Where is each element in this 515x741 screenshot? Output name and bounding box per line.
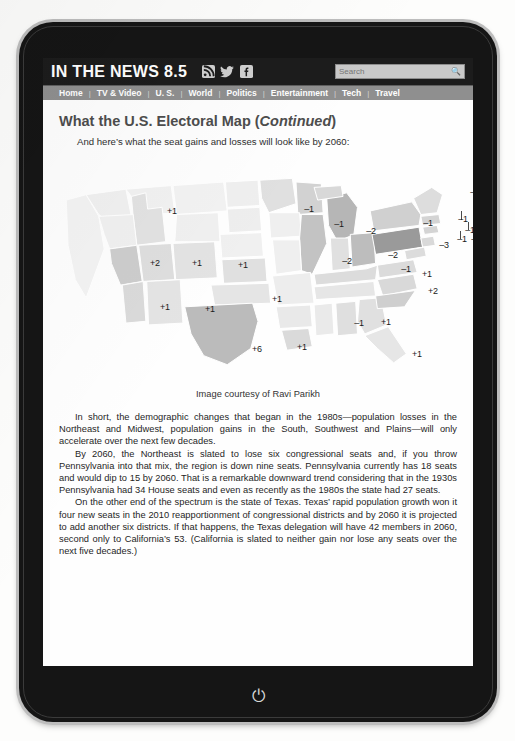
map-label-kansas: +1: [272, 294, 282, 304]
map-label-minnesota: –1: [304, 204, 314, 214]
scanned-page: IN THE NEWS 8.5: [0, 0, 515, 741]
map-label-new-jersey: –1: [471, 234, 473, 244]
map-label-connecticut: –1: [457, 234, 467, 244]
map-label-florida: +1: [412, 349, 422, 359]
map-label-maine: –1: [470, 187, 473, 197]
map-label-colorado: +1: [238, 260, 248, 270]
site-header: IN THE NEWS 8.5: [43, 58, 473, 85]
body-copy: In short, the demographic changes that b…: [59, 411, 457, 557]
map-label-utah: +1: [192, 258, 202, 268]
map-label-ohio: –2: [388, 250, 398, 260]
map-label-illinois: –2: [342, 256, 352, 266]
home-button[interactable]: ⏻: [247, 686, 269, 708]
nav-item-travel[interactable]: Travel: [369, 88, 406, 98]
map-label-vermont: –1: [458, 214, 468, 224]
map-label-kentucky: –1: [401, 264, 411, 274]
nav-item-world[interactable]: World: [182, 88, 218, 98]
paragraph-3: On the other end of the spectrum is the …: [59, 496, 457, 557]
search-box[interactable]: 🔍: [335, 64, 465, 79]
social-links: [201, 65, 253, 79]
site-logo: IN THE NEWS 8.5: [51, 63, 187, 81]
map-label-new-york: –1: [423, 218, 433, 228]
page-title-continued: Continued: [260, 113, 332, 129]
tablet-device: IN THE NEWS 8.5: [19, 22, 497, 722]
figure-caption: Image courtesy of Ravi Parikh: [59, 389, 457, 399]
map-label-idaho: +1: [167, 206, 177, 216]
rss-icon[interactable]: [201, 65, 215, 79]
us-seat-change-map: +1+2+1+1+1+1+1+6+1–1–1–2–2–2–1–1–3+1+2–1…: [59, 151, 457, 383]
page-title: What the U.S. Electoral Map (Continued): [59, 113, 457, 129]
map-label-alabama: –1: [354, 318, 364, 328]
map-label-louisiana: +1: [297, 342, 307, 352]
nav-item-politics[interactable]: Politics: [221, 88, 263, 98]
page-title-close: ): [331, 113, 336, 129]
twitter-icon[interactable]: [220, 65, 234, 79]
map-label-michigan: –2: [366, 226, 376, 236]
map-label-wisconsin: –1: [334, 219, 344, 229]
map-label-new-mexico: +1: [205, 304, 215, 314]
nav-item-home[interactable]: Home: [53, 88, 89, 98]
map-label-georgia: +1: [381, 317, 391, 327]
paragraph-2: By 2060, the Northeast is slated to lose…: [59, 448, 457, 497]
nav-item-tv-video[interactable]: TV & Video: [91, 88, 148, 98]
map-label-virginia: +1: [422, 269, 432, 279]
tablet-screen: IN THE NEWS 8.5: [43, 58, 473, 666]
map-figure: +1+2+1+1+1+1+1+6+1–1–1–2–2–2–1–1–3+1+2–1…: [59, 151, 457, 399]
map-label-pennsylvania: –3: [439, 240, 449, 250]
paragraph-1: In short, the demographic changes that b…: [59, 411, 457, 448]
search-icon[interactable]: 🔍: [451, 68, 461, 76]
nav-item-entertainment[interactable]: Entertainment: [265, 88, 334, 98]
nav-item-tech[interactable]: Tech: [336, 88, 367, 98]
search-input[interactable]: [339, 66, 451, 77]
map-label-north-carolina: +2: [428, 286, 438, 296]
map-label-arizona: +1: [160, 302, 170, 312]
map-label-nevada: +2: [150, 258, 160, 268]
facebook-icon[interactable]: [239, 65, 253, 79]
intro-line: And here’s what the seat gains and losse…: [77, 136, 457, 147]
site-nav: Home | TV & Video | U. S. | World | Poli…: [43, 85, 473, 100]
page-title-main: What the U.S. Electoral Map (: [59, 113, 260, 129]
article: What the U.S. Electoral Map (Continued) …: [43, 100, 473, 666]
map-label-texas: +6: [252, 344, 262, 354]
nav-item-us[interactable]: U. S.: [150, 88, 181, 98]
